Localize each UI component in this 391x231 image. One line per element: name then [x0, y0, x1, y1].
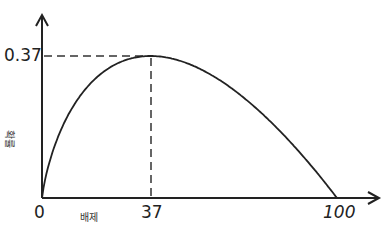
x-axis-label: 배제 [80, 209, 98, 224]
x-tick-100: 100 [323, 202, 355, 222]
x-tick-37: 37 [141, 202, 163, 222]
x-tick-0: 0 [34, 202, 45, 222]
chart-canvas [0, 0, 391, 231]
y-tick-037: 0.37 [4, 45, 42, 65]
y-axis-label: 확률 [3, 130, 18, 148]
probability-curve [42, 56, 337, 198]
